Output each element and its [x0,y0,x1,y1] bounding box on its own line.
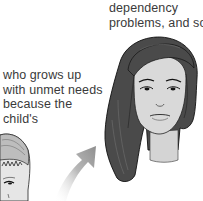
child-face-icon [0,134,30,201]
curved-arrow-icon [55,146,96,201]
illustration-canvas [0,0,203,201]
woman-face-icon [105,37,197,182]
